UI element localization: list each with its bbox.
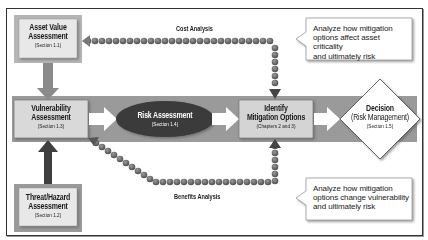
callout-bottom-line3: and ultimately risk (313, 202, 411, 211)
threat-to-vulnerability-arrow (38, 140, 58, 184)
callout-top-line3: and ultimately risk (313, 52, 411, 61)
asset-value-title-line2: Assessment (24, 32, 72, 41)
vulnerability-title-line2: Assessment (21, 113, 82, 122)
callout-bottom-text: Analyze how mitigation options change vu… (313, 184, 411, 212)
callout-top-text: Analyze how mitigation options affect as… (313, 24, 411, 61)
risk-assessment-section: (Section 1.4) (123, 122, 206, 128)
mitigation-options-label: Identify Mitigation Options (Chapters 2 … (239, 104, 313, 130)
cost-arrowhead-left (82, 35, 90, 47)
cost-analysis-dotted-path (85, 38, 279, 87)
benefits-analysis-dotted-path (93, 140, 279, 186)
risk-assessment-title: Risk Assessment (125, 111, 205, 120)
decision-section: (Section 1.5) (346, 124, 414, 130)
decision-label: Decision (Risk Management) (Section 1.5) (340, 104, 420, 130)
benefits-analysis-label: Benefits Analysis (174, 193, 220, 200)
mitigation-title-line2: Mitigation Options (246, 113, 307, 122)
mitigation-section: (Chapters 2 and 3) (245, 124, 308, 130)
threat-hazard-title-line2: Assessment (24, 202, 72, 211)
decision-title-line2: (Risk Management) (347, 113, 413, 122)
asset-value-label: Asset Value Assessment (Section 1.1) (19, 23, 77, 49)
threat-hazard-label: Threat/Hazard Assessment (Section 1.2) (19, 193, 77, 219)
vulnerability-label: Vulnerability Assessment (Section 1.3) (14, 104, 88, 130)
threat-hazard-section: (Section 1.2) (23, 213, 72, 219)
callout-bottom-line1: Analyze how mitigation (313, 184, 411, 193)
callout-top-line2: options affect asset criticality (313, 33, 411, 51)
asset-value-section: (Section 1.1) (23, 43, 72, 49)
asset-to-vulnerability-arrow (37, 63, 59, 100)
cost-analysis-label: Cost Analysis (176, 25, 213, 32)
callout-bottom-line2: options change vulnerability (313, 193, 411, 202)
risk-assessment-label: Risk Assessment (Section 1.4) (116, 111, 214, 128)
vulnerability-section: (Section 1.3) (20, 124, 83, 130)
callout-top-line1: Analyze how mitigation (313, 24, 411, 33)
